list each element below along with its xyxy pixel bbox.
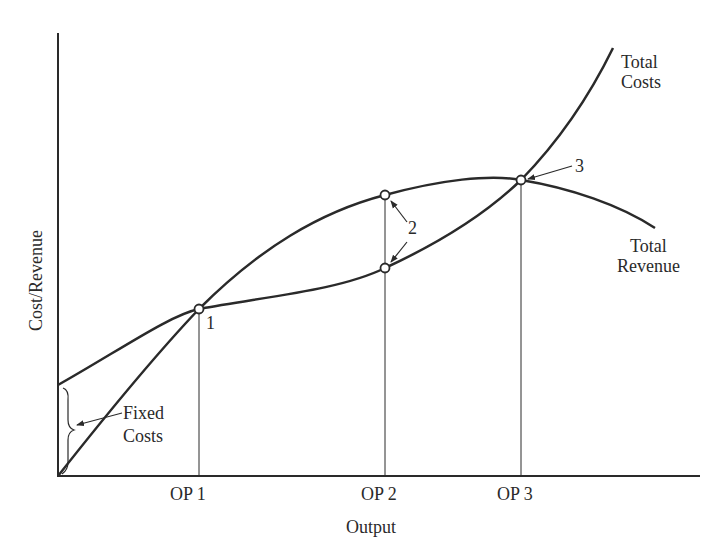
point2-upper-arrow [391, 201, 407, 222]
fixed-costs-label-line2: Costs [123, 426, 163, 446]
y-axis-label: Cost/Revenue [26, 201, 47, 361]
total-costs-label-line1: Total [621, 52, 658, 72]
point-1-label: 1 [206, 313, 215, 333]
point-2-label: 2 [408, 218, 417, 238]
break-even-diagram: Cost/Revenue OP 1 OP 2 OP 3 Output Total… [0, 0, 710, 560]
x-tick-op1: OP 1 [170, 484, 206, 504]
fixed-costs-brace [62, 388, 74, 474]
x-axis-label: Output [346, 517, 396, 537]
point-3-marker [517, 176, 526, 185]
point-2-lower-marker [381, 264, 390, 273]
fixed-costs-label-line1: Fixed [123, 403, 164, 423]
total-costs-label-line2: Costs [621, 72, 661, 92]
point3-arrow [528, 166, 572, 179]
x-tick-op2: OP 2 [361, 484, 397, 504]
point-3-label: 3 [575, 156, 584, 176]
total-revenue-label-line1: Total [630, 236, 667, 256]
diagram-canvas [0, 0, 710, 560]
total-revenue-label-line2: Revenue [617, 256, 680, 276]
point-2-upper-marker [381, 191, 390, 200]
point-1-marker [195, 305, 204, 314]
total-costs-curve [58, 48, 613, 385]
x-tick-op3: OP 3 [497, 484, 533, 504]
